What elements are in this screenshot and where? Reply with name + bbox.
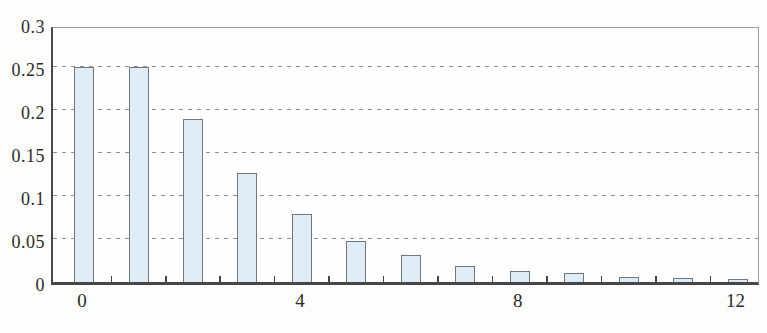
x-minor-tick: [328, 276, 330, 282]
x-minor-tick: [492, 276, 494, 282]
plot-area: [51, 27, 759, 285]
bar: [455, 266, 475, 282]
bar: [673, 278, 693, 282]
bar-chart-figure: 00.050.10.150.20.250.3 04812: [0, 0, 767, 333]
bar: [346, 241, 366, 282]
gridline: [53, 152, 758, 153]
x-minor-tick: [437, 276, 439, 282]
x-minor-tick: [601, 276, 603, 282]
y-tick-label: 0.25: [0, 58, 45, 82]
bar: [619, 277, 639, 282]
bar: [183, 119, 203, 282]
bar: [728, 279, 748, 282]
gridline: [53, 109, 758, 110]
x-minor-tick: [655, 276, 657, 282]
bar: [292, 214, 312, 282]
gridline: [53, 66, 758, 67]
y-tick-label: 0: [0, 273, 45, 297]
y-tick-label: 0.3: [0, 15, 45, 39]
x-minor-tick: [383, 276, 385, 282]
x-tick-label: 4: [278, 290, 322, 312]
gridline: [53, 195, 758, 196]
x-tick-label: 0: [60, 290, 104, 312]
x-minor-tick: [710, 276, 712, 282]
x-minor-tick: [111, 276, 113, 282]
x-tick-label: 12: [714, 290, 758, 312]
gridline: [53, 238, 758, 239]
x-minor-tick: [219, 276, 221, 282]
y-tick-label: 0.05: [0, 230, 45, 254]
y-tick-label: 0.2: [0, 101, 45, 125]
x-minor-tick: [546, 276, 548, 282]
x-minor-tick: [274, 276, 276, 282]
bar: [401, 255, 421, 282]
bar: [237, 173, 257, 282]
y-tick-label: 0.1: [0, 187, 45, 211]
bar: [74, 67, 94, 282]
y-tick-label: 0.15: [0, 144, 45, 168]
bar: [129, 67, 149, 282]
bar: [564, 273, 584, 282]
x-tick-label: 8: [496, 290, 540, 312]
x-minor-tick: [165, 276, 167, 282]
bar: [510, 271, 530, 282]
